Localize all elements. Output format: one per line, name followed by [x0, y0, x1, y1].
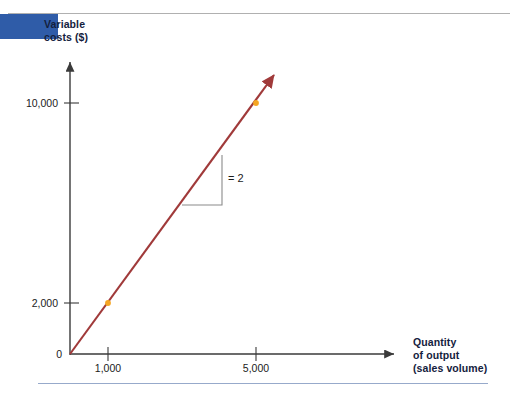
y-tick-label-2000: 2,000 — [0, 297, 58, 309]
slope-triangle — [182, 155, 222, 205]
data-point-marker — [253, 100, 259, 106]
slope-annotation-label: = 2 — [228, 172, 244, 184]
x-tick-label-1000: 1,000 — [78, 362, 138, 374]
variable-cost-line — [70, 75, 274, 354]
origin-label: 0 — [0, 348, 62, 360]
x-tick-label-5000: 5,000 — [226, 362, 286, 374]
data-point-marker — [105, 300, 111, 306]
figure-canvas: Variable costs ($) Quantity of output (s… — [0, 0, 520, 400]
y-tick-label-10000: 10,000 — [0, 97, 58, 109]
plot-area — [0, 0, 520, 400]
